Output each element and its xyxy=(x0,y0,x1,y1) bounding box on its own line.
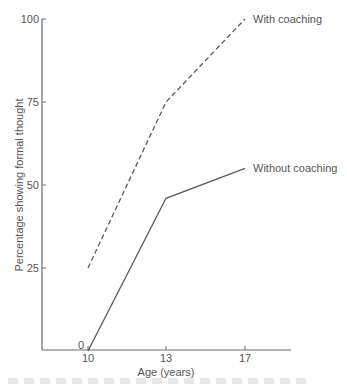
with-coaching-label: With coaching xyxy=(253,13,322,25)
y-tick-label: 25 xyxy=(27,262,39,274)
line-chart: 0255075100 101317 Percentage showing for… xyxy=(0,0,347,384)
without-coaching-label: Without coaching xyxy=(253,162,337,174)
y-tick-label: 75 xyxy=(27,96,39,108)
without-coaching-line xyxy=(88,168,245,351)
x-tick-label: 13 xyxy=(160,352,172,364)
x-axis-title: Age (years) xyxy=(138,366,195,378)
x-tick-label: 17 xyxy=(239,352,251,364)
y-tick-label: 0 xyxy=(78,339,84,351)
y-tick-label: 100 xyxy=(21,13,39,25)
x-tick-label: 10 xyxy=(82,352,94,364)
cutoff-caption-text xyxy=(8,378,308,384)
with-coaching-line xyxy=(88,19,245,268)
series-lines: With coachingWithout coaching xyxy=(88,13,337,351)
y-tick-label: 50 xyxy=(27,179,39,191)
y-axis-title: Percentage showing formal thought xyxy=(13,98,25,271)
y-axis: 0255075100 xyxy=(21,13,84,351)
